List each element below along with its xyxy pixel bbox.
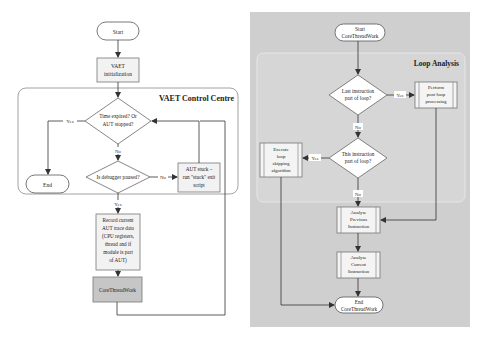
- svg-text:Instruction: Instruction: [348, 269, 370, 274]
- svg-text:Perform: Perform: [428, 85, 444, 90]
- svg-text:loop: loop: [277, 154, 286, 159]
- svg-text:Previous: Previous: [350, 217, 367, 222]
- svg-text:Start: Start: [113, 29, 124, 35]
- left-flowchart: VAET Control Centre Start VAET initializ…: [18, 22, 238, 315]
- svg-text:Current: Current: [351, 262, 367, 267]
- svg-text:Time expired? Or: Time expired? Or: [99, 113, 137, 119]
- post-loop-processing-box[interactable]: Perform post-loop processing: [415, 82, 457, 108]
- svg-text:Is debugger paused?: Is debugger paused?: [96, 174, 140, 180]
- svg-text:run "stuck" exit: run "stuck" exit: [183, 174, 216, 180]
- svg-text:initialization: initialization: [104, 71, 132, 77]
- svg-text:algorithm: algorithm: [271, 168, 290, 173]
- edge-label-debugger-no: No: [160, 175, 167, 180]
- svg-text:Analyse: Analyse: [350, 255, 366, 260]
- record-trace-data-box[interactable]: Record current AUT trace data (CPU regis…: [96, 214, 140, 270]
- svg-text:processing: processing: [426, 99, 447, 104]
- svg-text:part of loop?: part of loop?: [345, 158, 372, 164]
- aut-stuck-box[interactable]: AUT stuck – run "stuck" exit script: [178, 163, 220, 192]
- control-centre-title: VAET Control Centre: [159, 94, 234, 103]
- svg-text:CoreThreadWork: CoreThreadWork: [99, 287, 136, 293]
- svg-text:End: End: [43, 182, 52, 188]
- edge-label-this-no: No: [355, 192, 361, 197]
- loop-skipping-algorithm-box[interactable]: Execute loop skipping algorithm: [260, 143, 302, 177]
- svg-text:Start: Start: [355, 26, 366, 32]
- svg-text:End: End: [355, 299, 364, 305]
- svg-text:thread and if: thread and if: [105, 241, 131, 247]
- start-corethreadwork-terminal[interactable]: Start CoreThreadWork: [335, 24, 385, 41]
- svg-text:AUT trace data: AUT trace data: [102, 225, 135, 231]
- svg-text:Analyse: Analyse: [350, 210, 366, 215]
- right-flowchart: Loop Analysis Start CoreThreadWork Last …: [250, 12, 470, 327]
- vaet-initialization-box[interactable]: VAET initialization: [97, 58, 139, 82]
- svg-text:(CPU registers,: (CPU registers,: [102, 233, 134, 240]
- svg-text:Last instruction: Last instruction: [342, 88, 375, 94]
- svg-text:AUT stuck –: AUT stuck –: [186, 166, 213, 172]
- end-terminal[interactable]: End: [26, 175, 69, 193]
- svg-text:script: script: [193, 182, 205, 188]
- edge-label-debugger-yes: Yes: [114, 202, 121, 207]
- svg-text:post-loop: post-loop: [427, 92, 446, 97]
- loop-analysis-title: Loop Analysis: [414, 59, 459, 68]
- flowchart-canvas: VAET Control Centre Start VAET initializ…: [0, 0, 486, 342]
- end-corethreadwork-terminal[interactable]: End CoreThreadWork: [335, 297, 383, 313]
- svg-text:module is part: module is part: [103, 249, 133, 255]
- svg-text:VAET: VAET: [111, 63, 126, 69]
- edge-label-time-no: No: [115, 149, 122, 154]
- svg-text:CoreThreadWork: CoreThreadWork: [341, 306, 378, 312]
- svg-text:CoreThreadWork: CoreThreadWork: [342, 33, 379, 39]
- svg-text:This instruction: This instruction: [342, 151, 375, 157]
- svg-text:Record current: Record current: [103, 217, 135, 223]
- svg-text:of AUT): of AUT): [109, 257, 127, 264]
- edge-label-this-yes: Yes: [312, 156, 319, 161]
- svg-text:AUT stopped?: AUT stopped?: [103, 121, 135, 127]
- decision-time-expired[interactable]: Time expired? Or AUT stopped?: [85, 98, 151, 144]
- edge-label-last-no: No: [355, 125, 361, 130]
- analyse-current-instruction-box[interactable]: Analyse Current Instruction: [337, 252, 380, 278]
- edge-label-time-yes: Yes: [66, 119, 73, 124]
- edge-label-last-yes: Yes: [397, 93, 404, 98]
- start-terminal[interactable]: Start: [97, 22, 139, 40]
- analyse-previous-instruction-box[interactable]: Analyse Previous Instruction: [337, 207, 380, 233]
- svg-text:part of loop?: part of loop?: [345, 95, 372, 101]
- decision-debugger-paused[interactable]: Is debugger paused?: [86, 161, 150, 193]
- svg-text:skipping: skipping: [273, 161, 290, 166]
- svg-text:Execute: Execute: [273, 147, 289, 152]
- svg-text:Instruction: Instruction: [348, 224, 370, 229]
- corethreadwork-box[interactable]: CoreThreadWork: [93, 277, 142, 302]
